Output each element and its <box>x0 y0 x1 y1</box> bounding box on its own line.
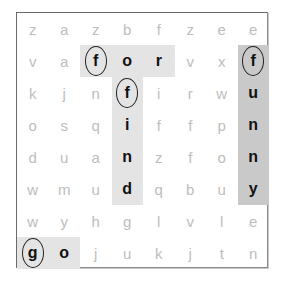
cell-letter: n <box>249 245 257 262</box>
grid-cell-r1-c3[interactable]: o <box>112 45 144 77</box>
grid-cell-r5-c3[interactable]: d <box>112 173 144 205</box>
cell-letter: o <box>59 244 69 262</box>
cell-letter: q <box>92 117 100 134</box>
cell-letter: f <box>93 52 98 70</box>
cell-letter: k <box>29 85 37 102</box>
grid-cell-r5-c1[interactable]: m <box>49 173 81 205</box>
grid-cell-r6-c6[interactable]: l <box>206 205 238 237</box>
grid-cell-r3-c2[interactable]: q <box>80 109 112 141</box>
grid-cell-r2-c4[interactable]: i <box>143 77 175 109</box>
grid-cell-r4-c1[interactable]: u <box>49 141 81 173</box>
cell-letter: f <box>188 149 192 166</box>
grid-cell-r0-c2[interactable]: z <box>80 13 112 45</box>
cell-letter: z <box>29 21 37 38</box>
grid-cell-r2-c5[interactable]: r <box>175 77 207 109</box>
cell-letter: r <box>188 85 193 102</box>
grid-cell-r6-c7[interactable]: e <box>238 205 270 237</box>
grid-cell-r6-c3[interactable]: g <box>112 205 144 237</box>
grid-cell-r0-c3[interactable]: b <box>112 13 144 45</box>
grid-cell-r0-c6[interactable]: e <box>206 13 238 45</box>
grid-cell-r2-c1[interactable]: j <box>49 77 81 109</box>
grid-cell-r6-c0[interactable]: w <box>17 205 49 237</box>
cell-letter: o <box>29 117 37 134</box>
cell-letter: n <box>122 148 132 166</box>
cell-letter: r <box>156 52 162 70</box>
grid-cell-r4-c3[interactable]: n <box>112 141 144 173</box>
grid-cell-r4-c5[interactable]: f <box>175 141 207 173</box>
grid-cell-r1-c6[interactable]: x <box>206 45 238 77</box>
grid-cell-r2-c3[interactable]: f <box>112 77 144 109</box>
grid-cell-r0-c1[interactable]: a <box>49 13 81 45</box>
grid-cell-r0-c0[interactable]: z <box>17 13 49 45</box>
cell-letter: i <box>125 116 129 134</box>
grid-cell-r4-c7[interactable]: n <box>238 141 270 173</box>
word-search-board: zazbfzeevaforvxfkjnfirwuosqiffpnduanzfon… <box>16 12 268 268</box>
cell-letter: n <box>248 148 258 166</box>
grid-cell-r1-c2[interactable]: f <box>80 45 112 77</box>
grid-cell-r1-c5[interactable]: v <box>175 45 207 77</box>
grid-cell-r3-c0[interactable]: o <box>17 109 49 141</box>
grid-cell-r5-c6[interactable]: u <box>206 173 238 205</box>
cell-letter: w <box>216 85 227 102</box>
grid-cell-r5-c7[interactable]: y <box>238 173 270 205</box>
grid-cell-r1-c4[interactable]: r <box>143 45 175 77</box>
grid-cell-r7-c6[interactable]: t <box>206 237 238 269</box>
grid-cell-r4-c4[interactable]: z <box>143 141 175 173</box>
grid-cell-r7-c1[interactable]: o <box>49 237 81 269</box>
grid-cell-r3-c7[interactable]: n <box>238 109 270 141</box>
grid-cell-r3-c6[interactable]: p <box>206 109 238 141</box>
cell-letter: j <box>189 245 192 262</box>
grid-cell-r4-c6[interactable]: o <box>206 141 238 173</box>
cell-letter: u <box>123 245 131 262</box>
grid-cell-r3-c5[interactable]: f <box>175 109 207 141</box>
grid-cell-r0-c5[interactable]: z <box>175 13 207 45</box>
grid-cell-r2-c6[interactable]: w <box>206 77 238 109</box>
grid-cell-r1-c1[interactable]: a <box>49 45 81 77</box>
letter-grid: zazbfzeevaforvxfkjnfirwuosqiffpnduanzfon… <box>17 13 269 269</box>
grid-cell-r6-c2[interactable]: h <box>80 205 112 237</box>
grid-cell-r7-c2[interactable]: j <box>80 237 112 269</box>
grid-cell-r5-c0[interactable]: w <box>17 173 49 205</box>
cell-letter: y <box>249 180 258 198</box>
grid-cell-r5-c4[interactable]: q <box>143 173 175 205</box>
grid-cell-r6-c5[interactable]: v <box>175 205 207 237</box>
grid-cell-r3-c3[interactable]: i <box>112 109 144 141</box>
cell-letter: l <box>220 213 223 230</box>
cell-letter: f <box>251 52 256 70</box>
cell-letter: b <box>123 21 131 38</box>
grid-cell-r3-c1[interactable]: s <box>49 109 81 141</box>
cell-letter: f <box>157 21 161 38</box>
cell-letter: m <box>58 181 71 198</box>
grid-cell-r7-c4[interactable]: k <box>143 237 175 269</box>
grid-cell-r7-c7[interactable]: n <box>238 237 270 269</box>
grid-cell-r1-c7[interactable]: f <box>238 45 270 77</box>
grid-cell-r5-c2[interactable]: u <box>80 173 112 205</box>
cell-letter: f <box>125 84 130 102</box>
grid-cell-r2-c7[interactable]: u <box>238 77 270 109</box>
cell-letter: a <box>92 149 100 166</box>
cell-letter: z <box>92 21 100 38</box>
cell-letter: b <box>186 181 194 198</box>
grid-cell-r2-c2[interactable]: n <box>80 77 112 109</box>
cell-letter: n <box>248 116 258 134</box>
grid-cell-r6-c4[interactable]: l <box>143 205 175 237</box>
cell-letter: x <box>218 53 226 70</box>
grid-cell-r5-c5[interactable]: b <box>175 173 207 205</box>
grid-cell-r1-c0[interactable]: v <box>17 45 49 77</box>
grid-cell-r7-c3[interactable]: u <box>112 237 144 269</box>
grid-cell-r3-c4[interactable]: f <box>143 109 175 141</box>
grid-cell-r2-c0[interactable]: k <box>17 77 49 109</box>
grid-cell-r0-c4[interactable]: f <box>143 13 175 45</box>
grid-cell-r7-c0[interactable]: g <box>17 237 49 269</box>
grid-cell-r0-c7[interactable]: e <box>238 13 270 45</box>
cell-letter: f <box>157 117 161 134</box>
cell-letter: u <box>218 181 226 198</box>
grid-cell-r4-c2[interactable]: a <box>80 141 112 173</box>
cell-letter: u <box>60 149 68 166</box>
grid-cell-r7-c5[interactable]: j <box>175 237 207 269</box>
grid-cell-r4-c0[interactable]: d <box>17 141 49 173</box>
cell-letter: k <box>155 245 163 262</box>
cell-letter: y <box>61 213 69 230</box>
cell-letter: z <box>187 21 195 38</box>
grid-cell-r6-c1[interactable]: y <box>49 205 81 237</box>
